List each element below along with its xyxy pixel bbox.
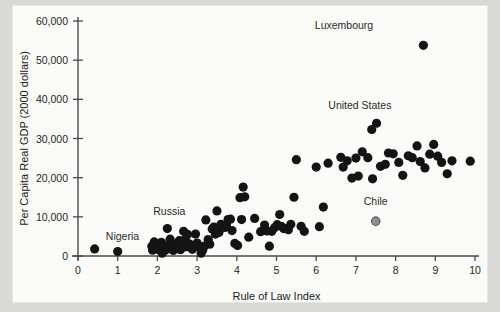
data-point [289,193,298,202]
data-point [227,226,236,235]
data-point [368,174,377,183]
y-axis-title: Per Capita Real GDP (2000 dollars) [18,51,30,226]
data-point [389,149,398,158]
data-point [343,156,352,165]
data-point [429,140,438,149]
x-tick-label-8: 8 [393,264,399,276]
data-point [239,182,248,191]
y-tick-label-50,000: 50,000 [36,54,68,66]
data-point [363,153,372,162]
data-point-chile [372,217,380,225]
x-tick-label-0: 0 [75,264,81,276]
annotation-label-luxembourg: Luxembourg [315,19,374,31]
data-point [163,224,172,233]
y-tick-label-20,000: 20,000 [36,172,68,184]
data-point [275,210,284,219]
annotation-label-russia: Russia [153,205,185,217]
data-point [237,215,246,224]
x-tick-label-5: 5 [274,264,280,276]
y-tick-label-60,000: 60,000 [36,15,68,27]
data-point [113,247,122,256]
data-point [265,242,274,251]
data-point [443,169,452,178]
data-point [201,215,210,224]
data-point [240,192,249,201]
x-tick-label-4: 4 [234,264,240,276]
y-tick-label-10,000: 10,000 [36,211,68,223]
data-point [420,163,429,172]
data-point [233,241,242,250]
data-point [292,155,301,164]
data-point [90,244,99,253]
data-point [437,158,446,167]
x-axis-title: Rule of Law Index [232,290,321,302]
data-point [425,150,434,159]
data-point [394,158,403,167]
data-point [226,215,235,224]
x-tick-label-2: 2 [154,264,160,276]
y-tick-label-30,000: 30,000 [36,133,68,145]
data-point [315,222,324,231]
x-tick-label-9: 9 [432,264,438,276]
data-point [408,153,417,162]
annotation-label-united-states: United States [328,99,391,111]
data-point [205,240,214,249]
data-point [286,220,295,229]
data-point [312,162,321,171]
data-point [212,206,221,215]
data-point [367,125,376,134]
data-point [319,202,328,211]
data-point [419,41,428,50]
x-tick-label-1: 1 [115,264,121,276]
x-tick-label-6: 6 [313,264,319,276]
figure-container: 012345678910010,00020,00030,00040,00050,… [0,0,500,312]
x-tick-label-3: 3 [194,264,200,276]
data-point [466,157,475,166]
data-point [447,156,456,165]
data-point [324,159,333,168]
data-point [354,172,363,181]
annotation-label-chile: Chile [364,195,388,207]
data-point [183,230,192,239]
data-point [191,229,200,238]
scatter-plot: 012345678910010,00020,00030,00040,00050,… [0,0,500,312]
data-point [398,171,407,180]
annotation-label-nigeria: Nigeria [106,230,139,242]
y-tick-label-40,000: 40,000 [36,93,68,105]
x-tick-label-7: 7 [353,264,359,276]
data-point [250,214,259,223]
x-tick-label-10: 10 [469,264,481,276]
data-point [300,227,309,236]
data-point [412,141,421,150]
data-point [244,233,253,242]
y-tick-label-0: 0 [62,250,68,262]
data-point [381,160,390,169]
